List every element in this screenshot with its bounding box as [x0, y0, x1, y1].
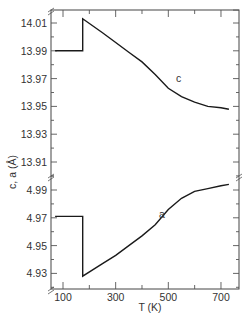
- y-tick-label-upper: 13.95: [21, 100, 47, 112]
- series-a-curve: [55, 184, 229, 276]
- x-tick-label: 500: [160, 291, 178, 303]
- x-tick-label: 700: [212, 291, 230, 303]
- x-tick-label: 100: [54, 291, 72, 303]
- y-tick-label-upper: 13.97: [21, 73, 47, 85]
- x-axis-title: T (K): [138, 301, 161, 313]
- y-tick-label-lower: 4.95: [27, 240, 48, 252]
- series-c-label: c: [176, 72, 181, 84]
- y-tick-label-lower: 4.99: [27, 184, 48, 196]
- y-tick-label-lower: 4.93: [27, 267, 48, 279]
- series-c-curve: [55, 19, 229, 109]
- y-tick-label-upper: 13.91: [21, 156, 47, 168]
- series-a-label: a: [159, 208, 165, 220]
- y-tick-label-upper: 13.99: [21, 45, 47, 57]
- y-tick-label-lower: 4.97: [27, 212, 48, 224]
- y-axis-title: c, a (Å): [6, 155, 18, 189]
- y-tick-label-upper: 14.01: [21, 17, 47, 29]
- x-tick-label: 300: [107, 291, 125, 303]
- y-tick-label-upper: 13.93: [21, 128, 47, 140]
- plot-frame: [51, 10, 239, 289]
- lattice-parameter-chart: 10030050070014.0113.9913.9713.9513.9313.…: [0, 0, 247, 319]
